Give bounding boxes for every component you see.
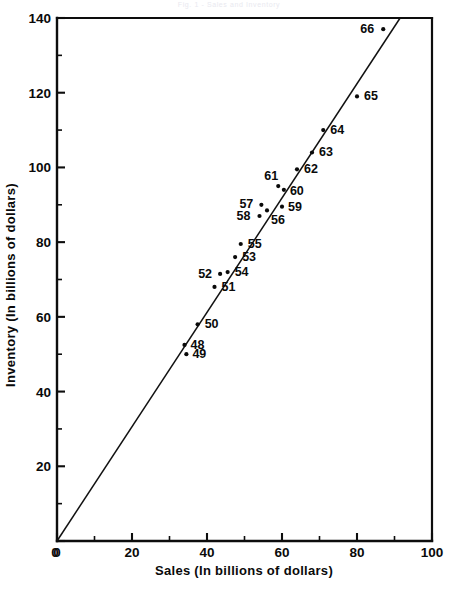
point-label-49: 49 xyxy=(192,347,206,361)
y-tick-label-0: 0 xyxy=(51,545,59,560)
point-marker-61 xyxy=(276,184,280,188)
data-point-66: 66 xyxy=(360,22,385,36)
x-tick-label-40: 40 xyxy=(199,545,214,560)
data-point-54: 54 xyxy=(226,265,249,279)
y-tick-label-120: 120 xyxy=(28,86,51,101)
point-label-64: 64 xyxy=(330,123,344,137)
y-tick-label-80: 80 xyxy=(36,235,51,250)
data-point-55: 55 xyxy=(239,237,262,251)
data-point-53: 53 xyxy=(233,250,256,264)
point-label-66: 66 xyxy=(360,22,374,36)
y-tick-label-100: 100 xyxy=(28,160,51,175)
x-tick-label-60: 60 xyxy=(274,545,289,560)
y-axis-title: Inventory (In billions of dollars) xyxy=(3,183,18,387)
point-marker-55 xyxy=(239,242,243,246)
point-marker-62 xyxy=(295,167,299,171)
point-label-61: 61 xyxy=(264,169,278,183)
chart-title: Fig. 1 - Sales and Inventory xyxy=(178,1,280,9)
point-marker-57 xyxy=(259,203,263,207)
point-label-50: 50 xyxy=(205,317,219,331)
x-tick-label-20: 20 xyxy=(124,545,139,560)
point-marker-66 xyxy=(381,27,385,31)
data-point-49: 49 xyxy=(184,347,206,361)
point-label-58: 58 xyxy=(237,209,251,223)
point-marker-63 xyxy=(310,150,314,154)
data-point-59: 59 xyxy=(280,200,302,214)
point-marker-48 xyxy=(182,343,186,347)
point-marker-50 xyxy=(196,322,200,326)
x-tick-label-100: 100 xyxy=(421,545,444,560)
point-label-62: 62 xyxy=(304,162,318,176)
data-point-group: 48495051525354555657585960616263646566 xyxy=(182,22,385,361)
data-point-63: 63 xyxy=(310,145,333,159)
y-tick-label-60: 60 xyxy=(36,310,51,325)
x-axis-title: Sales (In billions of dollars) xyxy=(155,563,333,578)
data-point-52: 52 xyxy=(198,267,222,281)
y-tick-label-40: 40 xyxy=(36,385,51,400)
point-label-51: 51 xyxy=(222,280,236,294)
x-tick-label-80: 80 xyxy=(349,545,364,560)
y-tick-label-20: 20 xyxy=(36,459,51,474)
point-label-65: 65 xyxy=(364,89,378,103)
point-label-52: 52 xyxy=(198,267,212,281)
point-marker-49 xyxy=(184,352,188,356)
point-marker-51 xyxy=(212,285,216,289)
data-point-65: 65 xyxy=(355,89,378,103)
point-marker-65 xyxy=(355,94,359,98)
data-point-51: 51 xyxy=(212,280,235,294)
point-marker-53 xyxy=(233,255,237,259)
y-axis-tick-labels: 204060801001201400 xyxy=(28,11,58,560)
point-marker-59 xyxy=(280,205,284,209)
point-marker-56 xyxy=(265,208,269,212)
point-label-53: 53 xyxy=(242,250,256,264)
point-label-63: 63 xyxy=(319,145,333,159)
point-marker-58 xyxy=(257,214,261,218)
point-marker-54 xyxy=(226,270,230,274)
point-marker-52 xyxy=(218,272,222,276)
point-label-55: 55 xyxy=(248,237,262,251)
data-point-60: 60 xyxy=(282,184,304,198)
data-point-56: 56 xyxy=(265,208,285,227)
y-tick-label-140: 140 xyxy=(28,11,51,26)
chart-canvas: Fig. 1 - Sales and Inventory 02040608010… xyxy=(0,0,458,590)
data-point-50: 50 xyxy=(196,317,219,331)
point-label-59: 59 xyxy=(288,200,302,214)
point-marker-64 xyxy=(321,128,325,132)
data-point-64: 64 xyxy=(321,123,344,137)
point-marker-60 xyxy=(282,188,286,192)
data-point-61: 61 xyxy=(264,169,280,188)
scatter-chart: Fig. 1 - Sales and Inventory 02040608010… xyxy=(0,0,458,590)
data-point-58: 58 xyxy=(237,209,262,223)
point-label-60: 60 xyxy=(290,184,304,198)
point-label-56: 56 xyxy=(271,213,285,227)
point-label-54: 54 xyxy=(235,265,249,279)
x-axis-tick-labels: 020406080100 xyxy=(53,545,443,560)
